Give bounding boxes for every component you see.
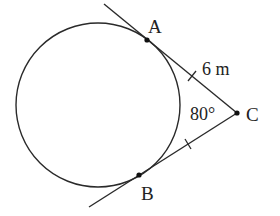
angle-label: 80° xyxy=(190,104,215,124)
length-label: 6 m xyxy=(202,59,230,79)
point-a-dot xyxy=(144,37,149,42)
point-c-dot xyxy=(234,110,239,115)
point-b-label: B xyxy=(141,183,154,204)
circle xyxy=(16,23,180,187)
point-c-label: C xyxy=(246,104,259,125)
tangent-line-cb xyxy=(89,113,237,207)
point-a-label: A xyxy=(148,16,162,37)
diagram-canvas: A B C 6 m 80° xyxy=(0,0,280,216)
tick-mark-ac xyxy=(188,71,196,81)
point-b-dot xyxy=(136,172,141,177)
tick-mark-bc xyxy=(185,139,191,149)
